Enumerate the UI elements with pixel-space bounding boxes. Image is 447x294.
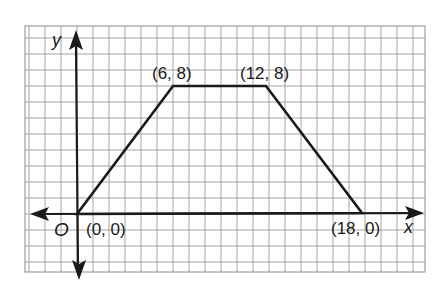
vertex-label-6-8: (6, 8): [152, 64, 192, 83]
vertex-label-12-8: (12, 8): [240, 64, 289, 83]
x-axis-label: x: [403, 217, 414, 237]
vertex-label-0-0: (0, 0): [86, 220, 126, 239]
origin-label: O: [54, 219, 69, 240]
vertex-label-18-0: (18, 0): [331, 219, 380, 238]
y-axis: [69, 30, 86, 280]
coordinate-plane: y x O (0, 0) (6, 8) (12, 8) (18, 0): [0, 0, 447, 294]
y-axis-label: y: [50, 30, 62, 50]
